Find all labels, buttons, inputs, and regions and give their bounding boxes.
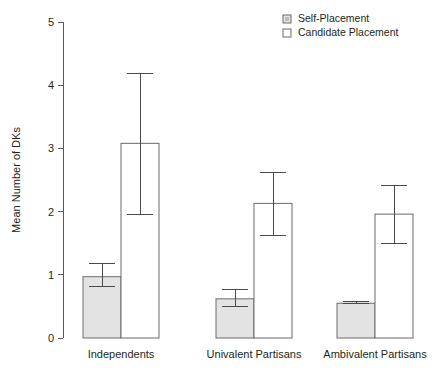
y-axis-tick-label: 4 bbox=[48, 79, 54, 91]
y-axis-tick-label: 0 bbox=[48, 332, 54, 344]
x-axis-category-label: Independents bbox=[88, 348, 155, 360]
legend-label: Candidate Placement bbox=[298, 26, 398, 38]
bars-group: IndependentsUnivalent PartisansAmbivalen… bbox=[83, 73, 427, 360]
legend-swatch-candidate-placement bbox=[283, 29, 291, 37]
legend-label: Self-Placement bbox=[298, 12, 369, 24]
bar-group: Independents bbox=[83, 73, 159, 360]
bar-chart-figure: 012345Mean Number of DKsIndependentsUniv… bbox=[0, 0, 436, 387]
y-axis: 012345Mean Number of DKs bbox=[10, 16, 63, 344]
y-axis-tick-label: 3 bbox=[48, 142, 54, 154]
bar-self-placement bbox=[337, 303, 375, 338]
x-axis-category-label: Ambivalent Partisans bbox=[323, 348, 427, 360]
chart-canvas: 012345Mean Number of DKsIndependentsUniv… bbox=[0, 0, 436, 387]
y-axis-tick-label: 5 bbox=[48, 16, 54, 28]
plot-area: 012345Mean Number of DKsIndependentsUniv… bbox=[0, 0, 436, 387]
legend: Self-PlacementCandidate Placement bbox=[283, 12, 398, 38]
legend-item: Self-Placement bbox=[283, 12, 369, 24]
bar-group: Univalent Partisans bbox=[207, 172, 302, 360]
y-axis-tick-label: 1 bbox=[48, 269, 54, 281]
y-axis-title: Mean Number of DKs bbox=[10, 127, 22, 233]
bar-group: Ambivalent Partisans bbox=[323, 185, 427, 360]
x-axis-category-label: Univalent Partisans bbox=[207, 348, 302, 360]
legend-swatch-inner-shade bbox=[285, 17, 289, 21]
legend-item: Candidate Placement bbox=[283, 26, 398, 38]
y-axis-tick-label: 2 bbox=[48, 206, 54, 218]
